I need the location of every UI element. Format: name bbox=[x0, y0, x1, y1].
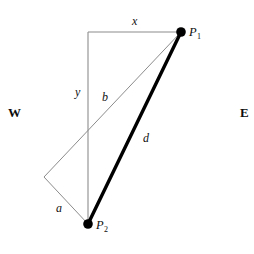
point-label-p1-letter: P bbox=[189, 25, 197, 39]
point-marker-p2 bbox=[83, 219, 93, 229]
segment-label-x: x bbox=[132, 15, 137, 27]
point-label-p2: P2 bbox=[96, 219, 108, 232]
compass-label-west: W bbox=[8, 106, 21, 119]
compass-label-east: E bbox=[240, 106, 249, 119]
point-label-p2-subscript: 2 bbox=[104, 225, 108, 234]
point-marker-p1 bbox=[176, 27, 186, 37]
segment-b-line bbox=[44, 32, 181, 177]
geometry-canvas bbox=[0, 0, 254, 254]
segment-label-d: d bbox=[143, 132, 149, 144]
segment-label-y: y bbox=[75, 86, 80, 98]
point-label-p1: P1 bbox=[189, 26, 201, 39]
point-label-p1-subscript: 1 bbox=[197, 32, 201, 41]
geometry-diagram: W E x y b d a P1 P2 bbox=[0, 0, 254, 254]
segment-label-b: b bbox=[102, 91, 108, 103]
segment-label-a: a bbox=[56, 202, 62, 214]
point-label-p2-letter: P bbox=[96, 218, 104, 232]
segment-d-line bbox=[88, 32, 181, 224]
segment-a-line bbox=[44, 177, 88, 224]
